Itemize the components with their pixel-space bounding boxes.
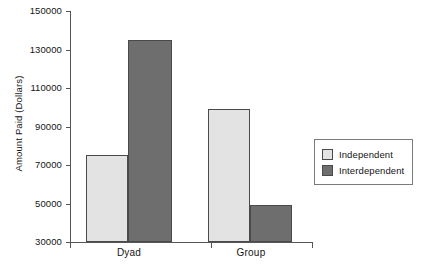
x-category-label-group: Group xyxy=(208,247,294,258)
legend-label-interdependent: Interdependent xyxy=(339,165,404,176)
x-category-label-dyad: Dyad xyxy=(86,247,172,258)
bar-group-interdependent xyxy=(250,205,292,243)
bar-chart: Amount Paid (Dollars) 150000 130000 1100… xyxy=(0,0,430,273)
bar-dyad-independent xyxy=(86,155,128,242)
y-tick-label-30000: 30000 xyxy=(14,237,62,247)
x-tick-mark-left xyxy=(70,242,71,248)
x-axis-line xyxy=(70,242,313,243)
y-tick-mark-110000 xyxy=(66,88,71,89)
y-tick-label-110000: 110000 xyxy=(14,83,62,93)
y-tick-mark-130000 xyxy=(66,50,71,51)
y-tick-mark-150000 xyxy=(66,11,71,12)
bar-dyad-interdependent xyxy=(128,40,172,242)
y-tick-mark-90000 xyxy=(66,127,71,128)
y-tick-mark-50000 xyxy=(66,204,71,205)
legend-item-independent: Independent xyxy=(322,146,404,162)
bar-group-independent xyxy=(208,109,250,242)
plot-area xyxy=(70,11,312,242)
x-tick-mark-right xyxy=(312,242,313,248)
y-tick-label-70000: 70000 xyxy=(14,160,62,170)
legend-item-interdependent: Interdependent xyxy=(322,162,404,178)
y-tick-label-130000: 130000 xyxy=(14,45,62,55)
y-axis-tick-labels: 150000 130000 110000 90000 70000 50000 3… xyxy=(14,0,62,273)
legend-swatch-icon-interdependent xyxy=(322,165,333,176)
legend-label-independent: Independent xyxy=(339,149,393,160)
y-tick-mark-70000 xyxy=(66,165,71,166)
y-tick-label-90000: 90000 xyxy=(14,122,62,132)
y-tick-label-50000: 50000 xyxy=(14,199,62,209)
legend-swatch-icon-independent xyxy=(322,149,333,160)
legend: Independent Interdependent xyxy=(314,139,413,185)
y-tick-label-150000: 150000 xyxy=(14,6,62,16)
